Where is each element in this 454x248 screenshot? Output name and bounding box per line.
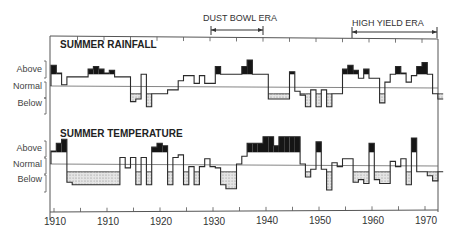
- rainfall-above-label: Above: [16, 64, 42, 74]
- temperature-above-label: Above: [16, 143, 42, 153]
- above-normal-bar: [295, 137, 300, 153]
- below-normal-bar: [78, 172, 83, 185]
- above-normal-bar: [152, 147, 157, 152]
- below-normal-bar: [146, 172, 151, 185]
- below-normal-bar: [168, 172, 173, 185]
- above-normal-bar: [258, 143, 263, 152]
- temperature-panel-title: SUMMER TEMPERATURE: [60, 128, 183, 139]
- x-tick-label: 1960: [362, 215, 385, 226]
- below-normal-bar: [88, 172, 93, 185]
- above-normal-bar: [242, 67, 247, 75]
- temperature-below-label: Below: [17, 174, 42, 184]
- below-normal-bar: [353, 172, 358, 182]
- below-normal-bar: [184, 172, 189, 185]
- above-normal-bar: [109, 70, 114, 74]
- below-normal-bar: [109, 172, 114, 185]
- above-normal-bar: [51, 65, 56, 74]
- below-normal-bar: [221, 172, 226, 185]
- below-normal-bar: [433, 172, 438, 181]
- above-normal-bar: [247, 143, 252, 152]
- x-tick-label: 1910: [44, 216, 67, 227]
- above-normal-bar: [274, 146, 279, 153]
- below-normal-bar: [146, 94, 151, 107]
- below-normal-bar: [131, 94, 136, 102]
- above-normal-bar: [279, 137, 284, 153]
- below-normal-bar: [104, 172, 109, 185]
- x-tick-label: 1970: [415, 215, 438, 226]
- above-normal-bar: [316, 142, 321, 152]
- high-yield-era-arrow: [352, 27, 437, 38]
- below-normal-bar: [427, 172, 432, 176]
- above-normal-bar: [268, 137, 273, 153]
- below-normal-bar: [358, 172, 363, 180]
- above-normal-bar: [290, 137, 295, 153]
- below-normal-bar: [136, 94, 141, 99]
- below-normal-bar: [406, 172, 411, 185]
- above-normal-bar: [353, 70, 358, 74]
- above-normal-bar: [369, 143, 374, 152]
- below-normal-bar: [327, 172, 332, 190]
- above-normal-bar: [411, 138, 416, 152]
- era-annotations: DUST BOWL ERA HIGH YIELD ERA: [203, 13, 437, 38]
- x-tick-label: 1940: [256, 215, 279, 226]
- rainfall-panel-title: SUMMER RAINFALL: [60, 39, 157, 50]
- climate-anomaly-chart: DUST BOWL ERA HIGH YIELD ERA SUMMER RAIN…: [0, 0, 454, 248]
- below-normal-bar: [327, 94, 332, 107]
- below-normal-bar: [438, 94, 443, 99]
- below-normal-bar: [364, 172, 369, 184]
- normal-baseline: [50, 164, 438, 166]
- below-normal-bar: [305, 172, 310, 177]
- below-normal-bar: [226, 172, 231, 189]
- below-normal-bar: [83, 172, 88, 185]
- above-normal-bar: [88, 69, 93, 74]
- above-normal-bar: [93, 67, 98, 75]
- x-tick-label: 1920: [150, 216, 173, 227]
- rainfall-below-label: Below: [17, 98, 42, 108]
- dust-bowl-era-arrow: [211, 26, 263, 35]
- below-normal-bar: [305, 94, 310, 107]
- below-normal-bar: [72, 172, 77, 185]
- below-normal-bar: [284, 94, 289, 99]
- above-normal-bar: [422, 63, 427, 75]
- x-tick-label: 1950: [309, 215, 332, 226]
- below-normal-bar: [316, 94, 321, 107]
- above-normal-bar: [252, 143, 257, 152]
- below-normal-bar: [194, 172, 199, 185]
- rainfall-y-labels: Above Normal Below: [13, 61, 46, 114]
- x-tick-label: 1930: [203, 216, 226, 227]
- above-normal-bar: [99, 69, 104, 74]
- x-axis-labels: 19101910192019301940195019601970: [44, 215, 438, 227]
- anomaly-step-line: [51, 60, 443, 107]
- above-normal-bar: [56, 143, 61, 152]
- below-normal-bar: [115, 172, 120, 185]
- above-normal-bar: [247, 60, 252, 74]
- above-normal-bar: [364, 69, 369, 74]
- below-normal-bar: [380, 94, 385, 103]
- below-normal-bar: [231, 172, 236, 189]
- below-normal-bar: [93, 172, 98, 185]
- high-yield-era-label: HIGH YIELD ERA: [352, 18, 424, 28]
- below-normal-bar: [136, 172, 141, 185]
- above-normal-bar: [157, 143, 162, 152]
- above-normal-bar: [215, 67, 220, 75]
- below-normal-bar: [279, 94, 284, 99]
- above-normal-bar: [162, 146, 167, 153]
- temperature-y-labels: Above Normal Below: [13, 141, 46, 192]
- dust-bowl-era-label: DUST BOWL ERA: [203, 13, 277, 23]
- below-normal-bar: [67, 172, 72, 182]
- below-normal-bar: [268, 94, 273, 99]
- above-normal-bar: [62, 139, 67, 152]
- above-normal-bar: [284, 137, 289, 153]
- below-normal-bar: [374, 172, 379, 180]
- above-normal-bar: [396, 67, 401, 75]
- below-normal-bar: [385, 172, 390, 184]
- temperature-series: [50, 137, 443, 190]
- temperature-normal-label: Normal: [13, 159, 42, 169]
- above-normal-bar: [417, 67, 422, 75]
- above-normal-bar: [348, 65, 353, 74]
- below-normal-bar: [99, 172, 104, 185]
- above-normal-bar: [263, 137, 268, 153]
- below-normal-bar: [380, 172, 385, 184]
- rainfall-series: [50, 60, 443, 107]
- above-normal-bar: [343, 69, 348, 74]
